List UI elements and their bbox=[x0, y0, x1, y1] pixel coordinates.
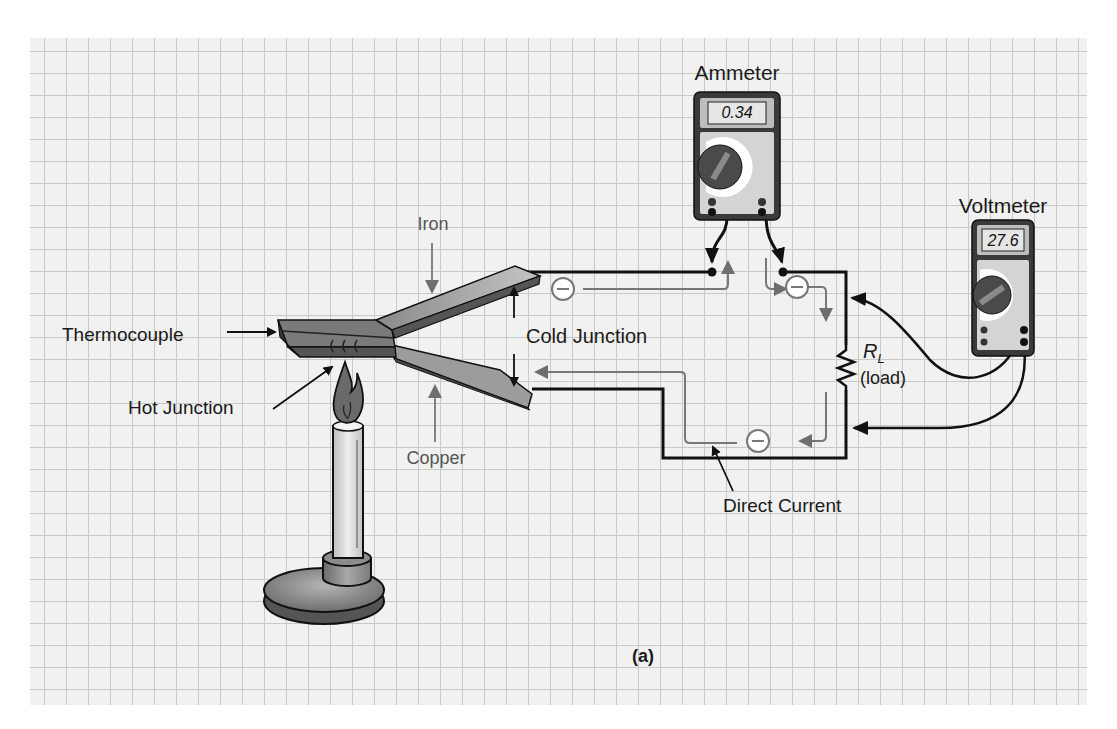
cold-junction-label: Cold Junction bbox=[526, 325, 647, 347]
thermocouple-assembly bbox=[278, 266, 540, 410]
electron-flow-paths bbox=[536, 258, 826, 443]
electron-icon bbox=[552, 278, 574, 300]
copper-label: Copper bbox=[406, 448, 465, 468]
flame-icon bbox=[334, 362, 363, 423]
ammeter-reading: 0.34 bbox=[721, 104, 752, 121]
iron-label: Iron bbox=[417, 214, 448, 234]
copper-strip bbox=[392, 345, 532, 410]
candle-burner bbox=[264, 362, 384, 624]
thermocouple-circuit-diagram: 0.34 27.6 Ammeter Voltmeter Iron Copper … bbox=[0, 0, 1117, 729]
ammeter-leads bbox=[712, 214, 782, 262]
figure-canvas: 0.34 27.6 Ammeter Voltmeter Iron Copper … bbox=[0, 0, 1117, 729]
load-resistor bbox=[838, 345, 854, 390]
ammeter-junction-node-left bbox=[708, 268, 717, 277]
load-symbol: RL bbox=[863, 340, 885, 366]
material-arrows bbox=[432, 243, 435, 442]
load-label: (load) bbox=[860, 368, 906, 388]
direct-current-label: Direct Current bbox=[723, 495, 842, 516]
voltmeter-reading: 27.6 bbox=[986, 232, 1018, 249]
ammeter-junction-node-right bbox=[779, 268, 788, 277]
figure-caption: (a) bbox=[632, 646, 654, 666]
iron-strip bbox=[376, 266, 540, 338]
ammeter-label: Ammeter bbox=[694, 61, 779, 84]
electron-markers bbox=[552, 276, 808, 452]
electron-icon bbox=[747, 430, 769, 452]
electron-icon bbox=[786, 276, 808, 298]
voltmeter-label: Voltmeter bbox=[959, 194, 1048, 217]
direct-current-arrow bbox=[713, 447, 733, 491]
hot-junction-block bbox=[278, 320, 396, 357]
thermocouple-label: Thermocouple bbox=[62, 324, 183, 345]
hot-junction-label: Hot Junction bbox=[128, 397, 234, 418]
